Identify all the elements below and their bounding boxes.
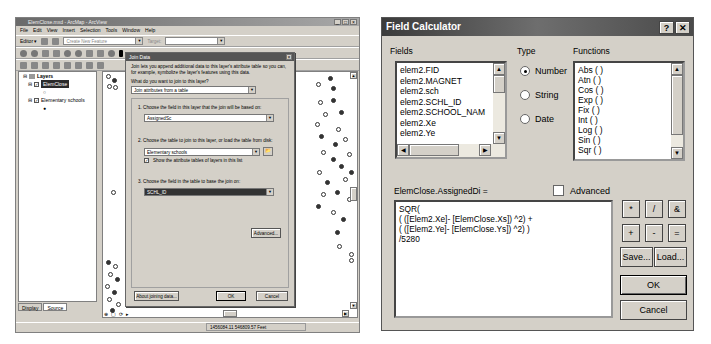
edit-tool-icon[interactable]	[41, 38, 48, 45]
menu-window[interactable]: Window	[122, 26, 140, 35]
field-item[interactable]: elem2.sch	[400, 86, 491, 97]
map-vertical-scrollbar-thumb[interactable]	[350, 187, 357, 201]
close-button[interactable]: ×	[350, 19, 357, 25]
function-item[interactable]: Exp ( )	[578, 95, 680, 105]
scroll-up-arrow-icon[interactable]: ▲	[671, 63, 683, 75]
scrollbar-thumb[interactable]	[671, 75, 683, 135]
maximize-button[interactable]: □	[342, 19, 349, 25]
join-cancel-button[interactable]: Cancel	[256, 291, 288, 301]
operator-plus-button[interactable]: +	[622, 224, 640, 242]
function-item[interactable]: Cos ( )	[578, 85, 680, 95]
show-layers-checkbox[interactable]: ✓	[144, 158, 149, 163]
operator-minus-button[interactable]: -	[645, 224, 663, 242]
scroll-down-arrow-icon[interactable]: ▼	[493, 132, 505, 144]
paste-icon[interactable]	[86, 62, 93, 69]
new-icon[interactable]	[20, 62, 27, 69]
fields-horizontal-scrollbar[interactable]: ◀ ▶	[397, 144, 505, 157]
type-date-radio[interactable]: Date	[520, 114, 554, 124]
advanced-checkbox[interactable]	[553, 185, 564, 196]
menu-tools[interactable]: Tools	[106, 26, 118, 35]
map-horizontal-scrollbar-thumb[interactable]	[223, 310, 237, 317]
join-target-field-dropdown[interactable]: SCHL_ID▼	[144, 188, 274, 196]
advanced-button[interactable]: Advanced...	[251, 228, 281, 238]
field-item[interactable]: elem2.Ye	[400, 128, 491, 139]
type-number-radio[interactable]: Number	[520, 66, 567, 76]
operator-divide-button[interactable]: /	[645, 200, 663, 218]
layer-visibility-checkbox[interactable]: ✓	[34, 98, 39, 103]
map-scroll-up-button[interactable]: ▲	[350, 72, 357, 79]
field-item[interactable]: elem2.Xe	[400, 118, 491, 129]
field-item[interactable]: elem2.FID	[400, 65, 491, 76]
function-item[interactable]: Abs ( )	[578, 65, 680, 75]
functions-list[interactable]: Abs ( ) Atn ( ) Cos ( ) Exp ( ) Fix ( ) …	[573, 61, 685, 161]
ok-button[interactable]: OK	[620, 275, 687, 295]
tab-display[interactable]: Display	[18, 303, 42, 311]
copy-icon[interactable]	[75, 62, 82, 69]
sketch-tool-icon[interactable]	[52, 38, 59, 45]
operator-concat-button[interactable]: &	[668, 200, 686, 218]
functions-vertical-scrollbar[interactable]: ▲ ▼	[671, 63, 683, 159]
toc-root[interactable]: ⊟ Layers	[19, 72, 96, 80]
help-button[interactable]: ?	[659, 21, 674, 34]
back-extent-icon[interactable]	[86, 50, 93, 57]
pointer-icon[interactable]	[119, 50, 123, 57]
scrollbar-thumb[interactable]	[409, 144, 459, 156]
join-close-button[interactable]: ×	[286, 54, 292, 60]
toc-layer-elementary-schools[interactable]: ⊟✓ Elementary schools	[19, 96, 96, 104]
field-item[interactable]: elem2.SCHL_ID	[400, 97, 491, 108]
map-scroll-right-button[interactable]: ▶	[342, 310, 349, 317]
save-icon[interactable]	[42, 62, 49, 69]
scroll-right-arrow-icon[interactable]: ▶	[479, 144, 491, 156]
toc-layer-elemclose[interactable]: ⊟✓ ElemClose	[19, 80, 96, 88]
about-joining-button[interactable]: About joining data...	[134, 291, 179, 301]
zoom-out-icon[interactable]	[31, 50, 38, 57]
scroll-down-arrow-icon[interactable]: ▼	[671, 147, 683, 159]
type-string-radio[interactable]: String	[520, 90, 559, 100]
fields-vertical-scrollbar[interactable]: ▲ ▼	[493, 63, 505, 144]
view-switch-buttons[interactable]: ⊕▢⟳▸	[104, 311, 129, 317]
function-item[interactable]: Sqr ( )	[578, 145, 680, 155]
function-item[interactable]: Int ( )	[578, 115, 680, 125]
menu-help[interactable]: Help	[145, 26, 155, 35]
target-combo[interactable]: ▼	[165, 37, 225, 45]
cut-icon[interactable]	[64, 62, 71, 69]
operator-multiply-button[interactable]: *	[622, 200, 640, 218]
open-folder-icon[interactable]: 📂	[263, 147, 273, 156]
map-scroll-down-button[interactable]: ▼	[350, 302, 357, 309]
tab-source[interactable]: Source	[43, 303, 67, 311]
advanced-checkbox-row[interactable]: Advanced	[553, 185, 610, 196]
join-type-dropdown[interactable]: Join attributes from a table▼	[131, 86, 256, 94]
function-item[interactable]: Log ( )	[578, 125, 680, 135]
function-item[interactable]: Atn ( )	[578, 75, 680, 85]
join-field-dropdown[interactable]: AssignedSc▼	[144, 114, 274, 122]
delete-icon[interactable]	[97, 62, 104, 69]
task-combo[interactable]: Create New Feature▼	[63, 37, 143, 45]
save-expression-button[interactable]: Save...	[620, 247, 653, 267]
pan-icon[interactable]	[64, 50, 71, 57]
fixed-zoom-out-icon[interactable]	[53, 50, 60, 57]
cancel-button[interactable]: Cancel	[620, 300, 687, 320]
menu-insert[interactable]: Insert	[62, 26, 75, 35]
open-icon[interactable]	[31, 62, 38, 69]
editor-menu[interactable]: Editor ▾	[20, 38, 37, 44]
join-ok-button[interactable]: OK	[216, 291, 246, 301]
minimize-button[interactable]: _	[334, 19, 341, 25]
load-expression-button[interactable]: Load...	[654, 247, 687, 267]
expression-textarea[interactable]: SQR( ( ([Elem2.Xe]- [ElemClose.Xs]) ^2) …	[394, 200, 613, 318]
scroll-up-arrow-icon[interactable]: ▲	[493, 63, 505, 75]
full-extent-icon[interactable]	[75, 50, 82, 57]
zoom-in-icon[interactable]	[20, 50, 27, 57]
scrollbar-thumb[interactable]	[493, 75, 505, 93]
menu-view[interactable]: View	[47, 26, 58, 35]
field-item[interactable]: elem2.MAGNET	[400, 76, 491, 87]
fields-list[interactable]: elem2.FID elem2.MAGNET elem2.sch elem2.S…	[395, 61, 507, 159]
scroll-left-arrow-icon[interactable]: ◀	[397, 144, 409, 156]
menu-file[interactable]: File	[20, 26, 28, 35]
join-table-dropdown[interactable]: Elementary schools▼	[144, 148, 260, 156]
function-item[interactable]: Sin ( )	[578, 135, 680, 145]
operator-equals-button[interactable]: =	[668, 224, 686, 242]
field-item[interactable]: elem2.SCHOOL_NAM	[400, 107, 491, 118]
select-features-icon[interactable]	[108, 50, 115, 57]
layer-visibility-checkbox[interactable]: ✓	[34, 82, 39, 87]
function-item[interactable]: Fix ( )	[578, 105, 680, 115]
